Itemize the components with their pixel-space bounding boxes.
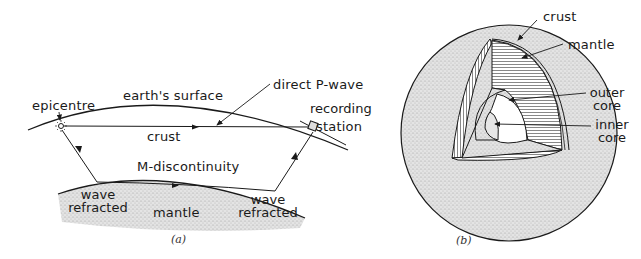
label-core-outer: core — [585, 99, 629, 112]
label-earths-surface: earth's surface — [123, 89, 223, 103]
ray-up-arrow-icon — [291, 152, 298, 160]
label-core-inner: core — [590, 131, 634, 144]
caption-b: (b) — [456, 234, 472, 247]
label-crust-a: crust — [147, 130, 181, 144]
label-wave-refracted-left: wave refracted — [68, 188, 128, 214]
figure-b — [401, 20, 617, 241]
label-outer-core: outer core — [585, 86, 629, 112]
direct-ray-arrow-icon — [192, 125, 199, 130]
epicentre-icon — [55, 120, 67, 132]
label-mantle-b: mantle — [568, 38, 615, 52]
ray-down-arrow-icon — [75, 146, 82, 153]
label-m-discontinuity: M-discontinuity — [137, 160, 239, 174]
label-inner-core: inner core — [590, 118, 634, 144]
label-recording: recording — [310, 102, 372, 115]
label-mantle-a: mantle — [153, 206, 200, 220]
caption-a: (a) — [171, 233, 186, 246]
label-crust-b: crust — [543, 10, 577, 24]
label-epicentre: epicentre — [32, 99, 95, 113]
label-refracted-right: refracted — [237, 206, 299, 219]
label-recording-station: recording — [310, 102, 372, 115]
label-station: station — [316, 120, 362, 134]
label-wave-refracted-right: wave refracted — [237, 193, 299, 219]
label-refracted-left: refracted — [68, 201, 128, 214]
direct-ray — [64, 126, 312, 127]
label-direct-p-wave: direct P-wave — [273, 78, 363, 92]
